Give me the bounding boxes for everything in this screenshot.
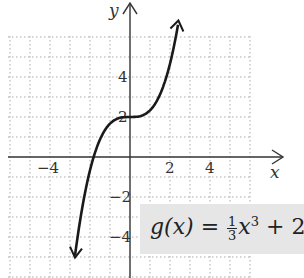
- x-tick-label: −4: [37, 159, 59, 177]
- x-axis-label: x: [270, 162, 280, 182]
- formula-prefix: g(x) =: [150, 214, 226, 239]
- x-tick-label: 2: [165, 159, 175, 177]
- x-tick-label: 4: [205, 159, 215, 177]
- y-axis-label: y: [108, 0, 119, 20]
- function-label: g(x) = 13x3 + 2: [150, 214, 304, 242]
- y-tick-label: −4: [109, 228, 131, 246]
- y-tick-label: 4: [118, 68, 128, 86]
- y-tick-label: −2: [109, 188, 131, 206]
- fraction: 13: [227, 215, 237, 242]
- graph: x y −42442−2−4 g(x) = 13x3 + 2: [0, 0, 304, 278]
